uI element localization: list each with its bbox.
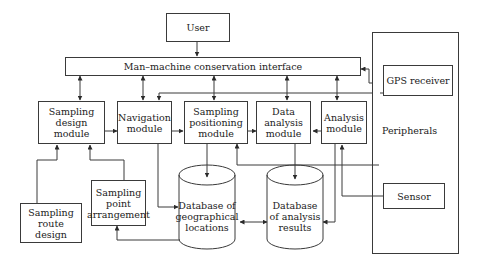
analysis-module: Analysis module [321,101,367,144]
db-analysis-label: Database of analysis results [267,200,323,233]
user-label: User [186,22,209,33]
sampling-route-design: Sampling route design [20,203,82,243]
sensor-box: Sensor [383,183,445,209]
gps-label: GPS receiver [386,75,449,86]
db-analysis-label-wrap: Database of analysis results [267,192,323,240]
navigation-module: Navigation module [117,101,172,144]
gps-receiver-box: GPS receiver [383,65,453,96]
data-analysis-module: Data analysis module [256,101,311,144]
peripherals-label-wrap: Peripherals [373,115,446,145]
db-geo-label-wrap: Database of geographical locations [179,192,235,240]
peripherals-label: Peripherals [382,125,437,136]
sampling-point-arrangement: Sampling point arrangement [91,180,146,226]
db-geo-label: Database of geographical locations [176,200,239,233]
user-box: User [166,13,230,42]
interface-label: Man–machine conservation interface [124,61,302,72]
interface-box: Man–machine conservation interface [65,57,361,76]
sensor-label: Sensor [397,191,430,202]
sampling-design-module: Sampling design module [38,101,105,144]
sampling-positioning-module: Sampling positioning module [184,101,248,144]
edge-gps-interface [361,69,372,83]
